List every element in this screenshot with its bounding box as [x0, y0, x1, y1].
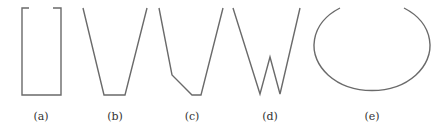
panel-d: (d)	[233, 8, 300, 123]
label-c: (c)	[185, 110, 200, 123]
shape-open-ellipse	[314, 8, 430, 91]
panel-e: (e)	[314, 8, 430, 123]
label-a: (a)	[33, 110, 48, 123]
panel-c: (c)	[159, 8, 223, 123]
shape-trapezoid	[83, 8, 147, 95]
shape-figure: (a) (b) (c) (d) (e)	[0, 0, 448, 135]
label-b: (b)	[107, 110, 123, 123]
shape-w	[233, 8, 300, 94]
panel-a: (a)	[22, 8, 61, 123]
label-e: (e)	[364, 110, 379, 123]
shape-kinked-polygon	[159, 8, 223, 95]
shape-open-rectangle	[22, 8, 61, 95]
label-d: (d)	[262, 110, 278, 123]
panel-b: (b)	[83, 8, 147, 123]
